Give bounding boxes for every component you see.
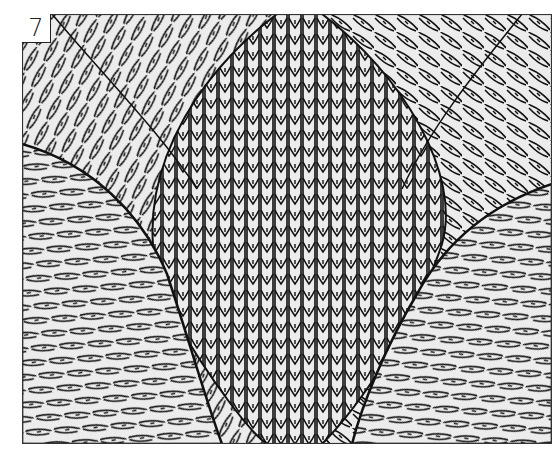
figure-number-label: 7 bbox=[22, 14, 51, 43]
knitting-illustration bbox=[22, 14, 552, 444]
knit-pattern-svg bbox=[22, 14, 552, 444]
